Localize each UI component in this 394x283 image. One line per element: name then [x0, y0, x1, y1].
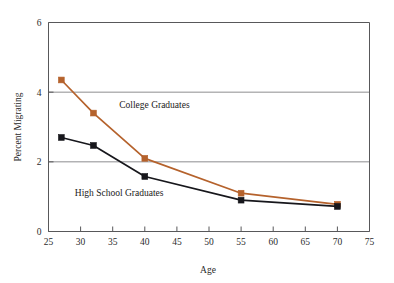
series-label-college-graduates: College Graduates	[119, 100, 190, 110]
x-tick-label-40: 40	[140, 237, 150, 247]
y-tick-label-4: 4	[37, 88, 42, 98]
y-axis-title: Percent Migrating	[13, 92, 23, 161]
x-tick-label-25: 25	[44, 237, 54, 247]
x-tick-label-70: 70	[333, 237, 343, 247]
x-tick-label-55: 55	[236, 237, 246, 247]
data-point-marker	[238, 190, 244, 196]
data-point-marker	[91, 143, 97, 149]
data-point-marker	[58, 135, 64, 141]
data-point-marker	[91, 110, 97, 116]
x-tick-label-45: 45	[172, 237, 182, 247]
x-tick-label-30: 30	[76, 237, 86, 247]
data-point-marker	[142, 174, 148, 180]
series-label-high-school-graduates: High School Graduates	[75, 188, 164, 198]
data-point-marker	[238, 197, 244, 203]
x-tick-label-75: 75	[365, 237, 375, 247]
x-tick-label-65: 65	[301, 237, 311, 247]
y-tick-label-6: 6	[37, 18, 42, 28]
x-tick-label-50: 50	[204, 237, 214, 247]
y-tick-label-2: 2	[37, 157, 42, 167]
data-point-marker	[142, 155, 148, 161]
x-tick-label-35: 35	[108, 237, 118, 247]
x-axis-title: Age	[200, 265, 216, 275]
y-tick-label-0: 0	[37, 227, 42, 237]
x-tick-label-60: 60	[268, 237, 278, 247]
data-point-marker	[335, 204, 341, 210]
chart-canvas: 2530354045505560657075 0246 College Grad…	[0, 0, 394, 283]
migration-line-chart: 2530354045505560657075 0246 College Grad…	[0, 0, 394, 283]
data-point-marker	[58, 77, 64, 83]
